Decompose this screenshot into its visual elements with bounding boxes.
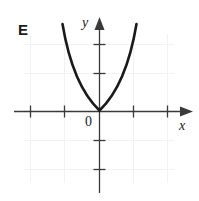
y-axis-label: y xyxy=(82,16,88,30)
x-axis-arrowhead xyxy=(180,107,193,117)
y-axis-arrowhead xyxy=(95,17,105,30)
graph-figure: E y x 0 xyxy=(0,0,199,201)
coordinate-plane xyxy=(0,0,199,201)
x-axis-label: x xyxy=(179,119,185,133)
choice-label-e: E xyxy=(18,22,29,37)
origin-label: 0 xyxy=(85,115,92,129)
